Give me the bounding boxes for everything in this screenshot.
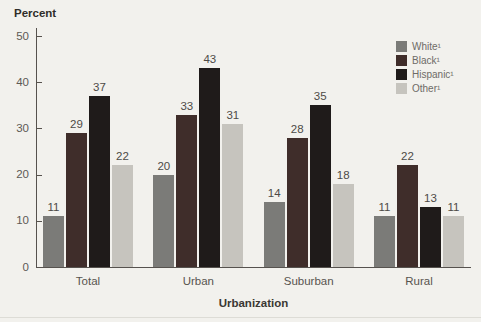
bar-value-label: 20 — [157, 160, 170, 172]
y-tick-label: 20 — [0, 168, 29, 181]
bar — [153, 175, 174, 267]
bar-value-label: 31 — [226, 109, 239, 121]
bar-chart-figure: Percent 01020304050 11293722Total2033433… — [0, 0, 481, 322]
bar-value-label: 43 — [203, 53, 216, 65]
bar — [43, 216, 64, 267]
bar-column: 22 — [112, 36, 133, 267]
bar-value-label: 22 — [116, 150, 129, 162]
bar-column: 14 — [264, 36, 285, 267]
bar-column: 18 — [333, 36, 354, 267]
legend: White¹Black¹Hispanic¹Other¹ — [396, 39, 454, 95]
bar-group: 14283518Suburban — [264, 36, 354, 267]
bar-column: 43 — [199, 36, 220, 267]
bar — [443, 216, 464, 267]
legend-item: Black¹ — [396, 53, 454, 67]
bar-column: 37 — [89, 36, 110, 267]
category-label: Urban — [153, 275, 243, 287]
bar — [310, 105, 331, 267]
y-tick-label: 40 — [0, 76, 29, 89]
legend-item: Other¹ — [396, 81, 454, 95]
x-axis-line — [36, 267, 471, 268]
bar-value-label: 35 — [314, 90, 327, 102]
bar-value-label: 22 — [401, 150, 414, 162]
bar-value-label: 29 — [70, 118, 83, 130]
bar — [222, 124, 243, 267]
legend-label: White¹ — [412, 41, 441, 52]
bar-column: 35 — [310, 36, 331, 267]
bar-value-label: 33 — [180, 100, 193, 112]
bar — [374, 216, 395, 267]
legend-label: Hispanic¹ — [412, 69, 454, 80]
legend-label: Other¹ — [412, 83, 440, 94]
bar — [89, 96, 110, 267]
legend-item: White¹ — [396, 39, 454, 53]
y-tick-label: 50 — [0, 30, 29, 43]
bar — [112, 165, 133, 267]
bar-value-label: 37 — [93, 81, 106, 93]
legend-label: Black¹ — [412, 55, 440, 66]
y-tick-label: 10 — [0, 214, 29, 227]
bar — [199, 68, 220, 267]
bar-value-label: 11 — [379, 201, 391, 213]
category-label: Total — [43, 275, 133, 287]
bar-value-label: 14 — [268, 187, 281, 199]
legend-swatch — [396, 55, 407, 66]
bar — [66, 133, 87, 267]
bar-value-label: 18 — [337, 169, 350, 181]
bar-value-label: 11 — [48, 201, 60, 213]
bar-column: 33 — [176, 36, 197, 267]
bar-column: 28 — [287, 36, 308, 267]
bar-group: 20334331Urban — [153, 36, 243, 267]
x-axis-title: Urbanization — [37, 297, 470, 309]
legend-swatch — [396, 41, 407, 52]
bar-column: 31 — [222, 36, 243, 267]
bar — [287, 138, 308, 267]
bar-value-label: 28 — [291, 123, 304, 135]
legend-swatch — [396, 83, 407, 94]
legend-item: Hispanic¹ — [396, 67, 454, 81]
category-label: Suburban — [264, 275, 354, 287]
bar — [176, 115, 197, 267]
y-tick-label: 0 — [0, 261, 29, 274]
bar — [264, 202, 285, 267]
bar — [420, 207, 441, 267]
y-tick-label: 30 — [0, 122, 29, 135]
bar-column: 11 — [374, 36, 395, 267]
legend-swatch — [396, 69, 407, 80]
bottom-divider — [0, 317, 481, 318]
bar — [333, 184, 354, 267]
bar-group: 11293722Total — [43, 36, 133, 267]
bar-column: 29 — [66, 36, 87, 267]
bar-column: 11 — [43, 36, 64, 267]
bar-value-label: 13 — [424, 192, 437, 204]
bar-value-label: 11 — [448, 201, 460, 213]
bar-column: 20 — [153, 36, 174, 267]
category-label: Rural — [374, 275, 464, 287]
bar — [397, 165, 418, 267]
y-axis-title: Percent — [14, 7, 56, 19]
